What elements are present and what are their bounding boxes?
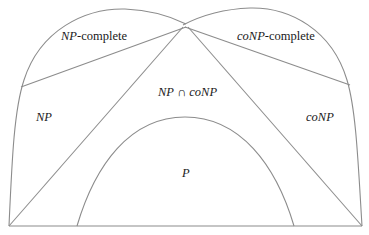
label-conp: coNP bbox=[306, 110, 334, 124]
label-np-complete: NP-complete bbox=[60, 29, 127, 43]
label-conp-complete: coNP-complete bbox=[237, 29, 315, 43]
label-np-intersect-conp: NP ∩ coNP bbox=[157, 85, 217, 99]
np-intersection-left-boundary bbox=[9, 27, 183, 226]
label-np: NP bbox=[35, 110, 52, 124]
conp-intersection-right-boundary bbox=[188, 27, 362, 226]
label-p: P bbox=[181, 166, 190, 180]
complexity-class-diagram: NP-complete coNP-complete NP coNP NP ∩ c… bbox=[0, 0, 369, 235]
